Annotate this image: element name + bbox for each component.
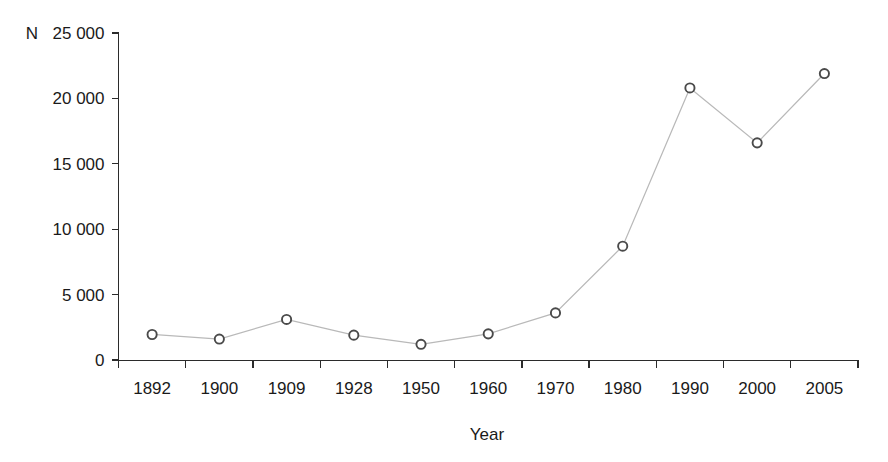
y-axis-title: N — [26, 24, 38, 43]
data-point-marker — [484, 329, 493, 338]
x-axis-tick-label: 1960 — [469, 379, 507, 398]
x-axis-tick-label: 1950 — [402, 379, 440, 398]
data-point-marker — [685, 83, 694, 92]
y-axis-tick-label: 20 000 — [53, 89, 105, 108]
series-line-N — [152, 74, 824, 345]
y-axis-tick-label: 25 000 — [53, 24, 105, 43]
x-axis-tick-label: 1892 — [133, 379, 171, 398]
data-point-marker — [416, 340, 425, 349]
data-point-marker — [618, 242, 627, 251]
chart-figure: 05 00010 00015 00020 00025 000 N 1892190… — [0, 0, 888, 462]
x-axis-ticks — [119, 360, 859, 368]
y-axis-tick-label: 5 000 — [62, 286, 105, 305]
y-axis-tick-label: 10 000 — [53, 220, 105, 239]
x-axis-group: 1892190019091928195019601970198019902000… — [119, 360, 859, 444]
y-axis-tick-labels: 05 00010 00015 00020 00025 000 — [53, 24, 105, 370]
data-point-marker — [820, 69, 829, 78]
x-axis-tick-label: 1970 — [537, 379, 575, 398]
x-axis-tick-label: 1928 — [335, 379, 373, 398]
data-point-marker — [215, 334, 224, 343]
x-axis-tick-label: 1909 — [268, 379, 306, 398]
y-axis-group: 05 00010 00015 00020 00025 000 N — [26, 24, 119, 370]
data-point-marker — [551, 308, 560, 317]
x-axis-title: Year — [470, 425, 505, 444]
data-series-group — [148, 69, 829, 349]
x-axis-tick-label: 1980 — [604, 379, 642, 398]
data-point-marker — [753, 138, 762, 147]
x-axis-tick-label: 2000 — [738, 379, 776, 398]
data-point-marker — [349, 331, 358, 340]
y-axis-tick-label: 15 000 — [53, 155, 105, 174]
data-point-marker — [282, 315, 291, 324]
data-point-marker — [148, 330, 157, 339]
x-axis-tick-labels: 1892190019091928195019601970198019902000… — [133, 379, 843, 398]
x-axis-tick-label: 2005 — [805, 379, 843, 398]
y-axis-tick-label: 0 — [95, 351, 104, 370]
x-axis-tick-label: 1990 — [671, 379, 709, 398]
series-markers — [148, 69, 829, 349]
line-chart-plot: 05 00010 00015 00020 00025 000 N 1892190… — [0, 0, 888, 462]
y-axis-ticks — [112, 33, 119, 360]
x-axis-tick-label: 1900 — [200, 379, 238, 398]
